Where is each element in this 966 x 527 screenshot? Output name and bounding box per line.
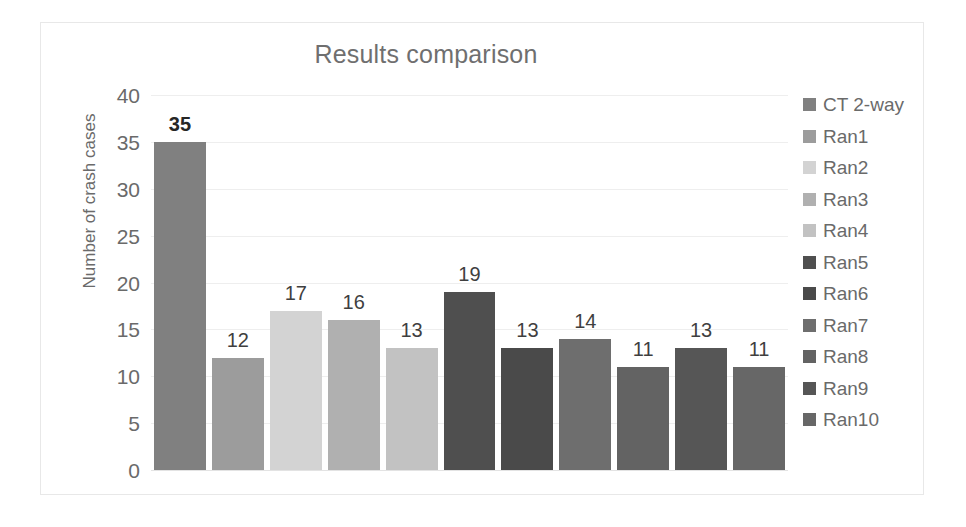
bar-slot: 14 <box>556 95 614 470</box>
legend-swatch-icon <box>803 413 816 426</box>
y-axis-tick-label: 30 <box>117 178 140 199</box>
legend-swatch-icon <box>803 224 816 237</box>
bar-value-label: 13 <box>672 320 730 340</box>
y-axis-tick-label: 35 <box>117 131 140 152</box>
legend-item-ran9[interactable]: Ran9 <box>803 373 923 405</box>
y-axis-tick-label: 5 <box>128 413 140 434</box>
y-axis-tick-label: 20 <box>117 272 140 293</box>
bar-ran5[interactable] <box>444 292 496 470</box>
y-axis-tick-label: 0 <box>128 460 140 481</box>
legend-item-ran3[interactable]: Ran3 <box>803 184 923 216</box>
legend-item-ran1[interactable]: Ran1 <box>803 121 923 153</box>
bar-slot: 13 <box>498 95 556 470</box>
legend-swatch-icon <box>803 382 816 395</box>
legend-swatch-icon <box>803 287 816 300</box>
legend-swatch-icon <box>803 193 816 206</box>
bars-layer: 3512171613191314111311 <box>151 95 788 470</box>
bar-ran10[interactable] <box>733 367 785 470</box>
bar-ran9[interactable] <box>675 348 727 470</box>
y-axis-tick-label: 25 <box>117 225 140 246</box>
bar-slot: 35 <box>151 95 209 470</box>
legend-item-ran2[interactable]: Ran2 <box>803 152 923 184</box>
bar-slot: 13 <box>383 95 441 470</box>
legend-item-label: Ran4 <box>823 221 868 240</box>
bar-ran1[interactable] <box>212 358 264 471</box>
legend-swatch-icon <box>803 319 816 332</box>
legend-item-label: Ran5 <box>823 253 868 272</box>
bar-slot: 11 <box>614 95 672 470</box>
legend-item-ran8[interactable]: Ran8 <box>803 341 923 373</box>
legend-item-ct-2-way[interactable]: CT 2-way <box>803 89 923 121</box>
chart-title: Results comparison <box>41 40 811 69</box>
bar-value-label: 11 <box>614 339 672 359</box>
chart-legend: CT 2-wayRan1Ran2Ran3Ran4Ran5Ran6Ran7Ran8… <box>803 89 923 436</box>
legend-item-label: CT 2-way <box>823 95 904 114</box>
bar-value-label: 35 <box>151 114 209 134</box>
chart-frame: Results comparison Number of crash cases… <box>40 22 924 495</box>
y-axis-title: Number of crash cases <box>80 91 100 311</box>
legend-item-label: Ran3 <box>823 190 868 209</box>
legend-swatch-icon <box>803 98 816 111</box>
bar-ran3[interactable] <box>328 320 380 470</box>
legend-item-ran6[interactable]: Ran6 <box>803 278 923 310</box>
bar-value-label: 12 <box>209 330 267 350</box>
legend-item-ran5[interactable]: Ran5 <box>803 247 923 279</box>
legend-item-label: Ran7 <box>823 316 868 335</box>
legend-swatch-icon <box>803 256 816 269</box>
y-axis-tick-label: 15 <box>117 319 140 340</box>
bar-ran7[interactable] <box>559 339 611 470</box>
bar-ran6[interactable] <box>501 348 553 470</box>
bar-value-label: 14 <box>556 311 614 331</box>
bar-slot: 17 <box>267 95 325 470</box>
y-axis-tick-label: 40 <box>117 85 140 106</box>
bar-slot: 19 <box>441 95 499 470</box>
plot-area: 4035302520151050 3512171613191314111311 <box>151 95 788 470</box>
legend-swatch-icon <box>803 161 816 174</box>
bar-value-label: 13 <box>383 320 441 340</box>
gridline <box>151 470 788 471</box>
legend-item-label: Ran8 <box>823 347 868 366</box>
bar-slot: 13 <box>672 95 730 470</box>
legend-swatch-icon <box>803 130 816 143</box>
bar-value-label: 19 <box>441 264 499 284</box>
bar-ct-2-way[interactable] <box>154 142 206 470</box>
legend-item-ran7[interactable]: Ran7 <box>803 310 923 342</box>
y-axis-tick-label: 10 <box>117 366 140 387</box>
legend-swatch-icon <box>803 350 816 363</box>
legend-item-label: Ran9 <box>823 379 868 398</box>
legend-item-label: Ran10 <box>823 410 879 429</box>
bar-ran8[interactable] <box>617 367 669 470</box>
bar-slot: 16 <box>325 95 383 470</box>
bar-value-label: 17 <box>267 283 325 303</box>
legend-item-ran10[interactable]: Ran10 <box>803 404 923 436</box>
bar-value-label: 16 <box>325 292 383 312</box>
bar-value-label: 11 <box>730 339 788 359</box>
bar-value-label: 13 <box>498 320 556 340</box>
legend-item-label: Ran1 <box>823 127 868 146</box>
bar-ran4[interactable] <box>386 348 438 470</box>
bar-slot: 11 <box>730 95 788 470</box>
legend-item-label: Ran2 <box>823 158 868 177</box>
bar-ran2[interactable] <box>270 311 322 470</box>
legend-item-label: Ran6 <box>823 284 868 303</box>
legend-item-ran4[interactable]: Ran4 <box>803 215 923 247</box>
bar-slot: 12 <box>209 95 267 470</box>
